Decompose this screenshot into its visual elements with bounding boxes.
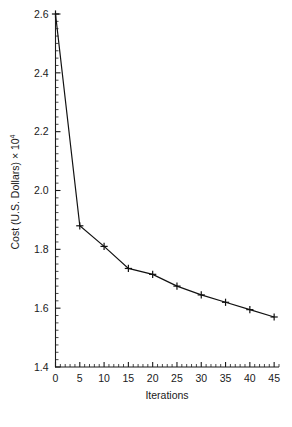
x-tick-label: 45: [268, 372, 280, 384]
y-axis-title: Cost (U.S. Dollars) × 104: [9, 134, 21, 249]
x-tick-label: 30: [195, 372, 207, 384]
line-chart: 1.41.61.82.02.22.42.6 051015202530354045…: [0, 0, 292, 427]
y-tick-label: 2.4: [34, 67, 49, 79]
x-tick-label: 10: [98, 372, 110, 384]
x-tick-label: 40: [244, 372, 256, 384]
svg-text:Cost (U.S. Dollars) × 104: Cost (U.S. Dollars) × 104: [9, 134, 21, 249]
x-tick-label: 15: [123, 372, 135, 384]
x-tick-label: 0: [53, 372, 59, 384]
x-tick-label: 25: [171, 372, 183, 384]
figure-container: 1.41.61.82.02.22.42.6 051015202530354045…: [0, 0, 292, 427]
y-tick-label: 1.8: [34, 243, 49, 255]
x-tick-label: 35: [220, 372, 232, 384]
y-tick-label: 1.6: [34, 302, 49, 314]
x-tick-label: 5: [77, 372, 83, 384]
x-tick-label: 20: [147, 372, 159, 384]
y-tick-label: 2.2: [34, 125, 49, 137]
y-tick-label: 2.0: [34, 184, 49, 196]
y-tick-label: 1.4: [34, 361, 49, 373]
y-tick-label: 2.6: [34, 8, 49, 20]
x-axis-title: Iterations: [145, 389, 188, 401]
